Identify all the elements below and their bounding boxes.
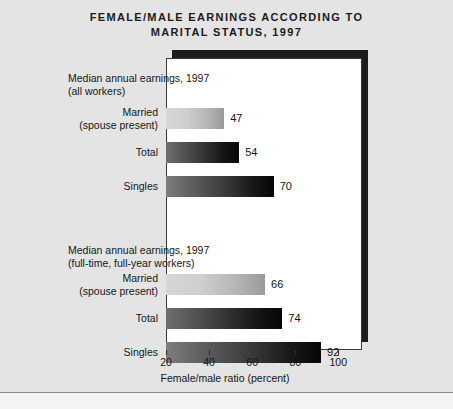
x-axis-tick-label-20: 20: [160, 356, 172, 368]
group-caption-1: Median annual earnings, 1997 (all worker…: [68, 72, 209, 98]
plot-box: [166, 58, 362, 350]
x-axis-tick-80: [295, 350, 296, 355]
group-caption-2-line-2: (full-time, full-year workers): [68, 257, 209, 270]
bar-value-all-workers-singles: 70: [280, 176, 292, 197]
x-axis-tick-20: [166, 350, 167, 355]
x-axis-tick-label-80: 80: [289, 356, 301, 368]
x-axis-tick-100: [338, 350, 339, 355]
category-label-all-workers-total: Total: [0, 146, 158, 159]
chart-title-line-1: FEMALE/MALE EARNINGS ACCORDING TO: [0, 10, 453, 25]
category-label-fulltime-singles-line-1: Singles: [0, 346, 158, 359]
x-axis-tick-label-100: 100: [330, 356, 348, 368]
category-label-all-workers-total-line-1: Total: [0, 146, 158, 159]
bar-all-workers-married: [166, 108, 224, 129]
x-axis-tick-label-60: 60: [246, 356, 258, 368]
category-label-all-workers-singles: Singles: [0, 180, 158, 193]
category-label-all-workers-married-line-2: (spouse present): [0, 119, 158, 132]
page-footer-strip: [0, 393, 453, 409]
x-axis-tick-60: [252, 350, 253, 355]
x-axis-tick-40: [209, 350, 210, 355]
x-axis: 20406080100: [166, 350, 362, 356]
group-caption-2-line-1: Median annual earnings, 1997: [68, 244, 209, 257]
category-label-all-workers-singles-line-1: Singles: [0, 180, 158, 193]
chart-title: FEMALE/MALE EARNINGS ACCORDING TO MARITA…: [0, 10, 453, 40]
bar-value-all-workers-married: 47: [230, 108, 242, 129]
category-label-all-workers-married: Married (spouse present): [0, 106, 158, 131]
bar-all-workers-singles: [166, 176, 274, 197]
category-label-fulltime-total-line-1: Total: [0, 312, 158, 325]
group-caption-2: Median annual earnings, 1997 (full-time,…: [68, 244, 209, 270]
category-label-fulltime-singles: Singles: [0, 346, 158, 359]
bar-fulltime-total: [166, 308, 282, 329]
chart-page: FEMALE/MALE EARNINGS ACCORDING TO MARITA…: [0, 0, 453, 409]
x-axis-title: Female/male ratio (percent): [60, 372, 390, 384]
chart-title-line-2: MARITAL STATUS, 1997: [0, 25, 453, 40]
category-label-fulltime-married-line-1: Married: [0, 272, 158, 285]
group-caption-1-line-1: Median annual earnings, 1997: [68, 72, 209, 85]
bar-value-all-workers-total: 54: [245, 142, 257, 163]
category-label-all-workers-married-line-1: Married: [0, 106, 158, 119]
bar-all-workers-total: [166, 142, 239, 163]
bar-value-fulltime-married: 66: [271, 274, 283, 295]
category-label-fulltime-married: Married (spouse present): [0, 272, 158, 297]
bar-fulltime-married: [166, 274, 265, 295]
bar-value-fulltime-total: 74: [288, 308, 300, 329]
chart-area: Median annual earnings, 1997 (all worker…: [60, 50, 390, 350]
category-label-fulltime-married-line-2: (spouse present): [0, 285, 158, 298]
group-caption-1-line-2: (all workers): [68, 85, 209, 98]
x-axis-tick-label-40: 40: [203, 356, 215, 368]
category-label-fulltime-total: Total: [0, 312, 158, 325]
